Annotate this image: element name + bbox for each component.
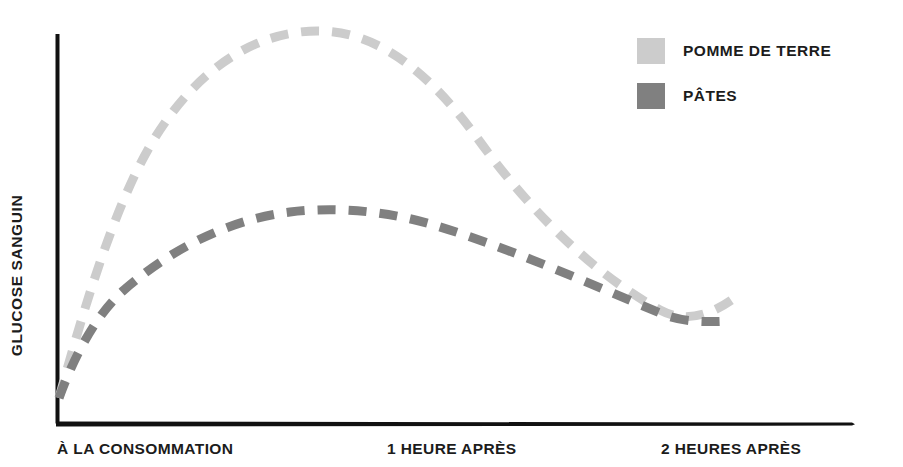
legend-item-pates: PÂTES <box>637 83 831 109</box>
x-axis-label-consommation: À LA CONSOMMATION <box>57 440 233 458</box>
chart-legend: POMME DE TERRE PÂTES <box>637 38 831 109</box>
series-line-pates <box>59 210 728 398</box>
legend-label-pates: PÂTES <box>683 87 737 105</box>
legend-swatch-pates <box>637 83 665 109</box>
legend-label-pomme-de-terre: POMME DE TERRE <box>683 42 831 60</box>
legend-item-pomme-de-terre: POMME DE TERRE <box>637 38 831 64</box>
x-axis-label-2-heures: 2 HEURES APRÈS <box>661 440 801 458</box>
x-axis-line <box>56 422 855 427</box>
legend-swatch-pomme-de-terre <box>637 38 665 64</box>
glucose-chart: GLUCOSE SANGUIN À LA CONSOMMATION 1 HEUR… <box>0 0 903 467</box>
x-axis-label-1-heure: 1 HEURE APRÈS <box>387 440 517 458</box>
